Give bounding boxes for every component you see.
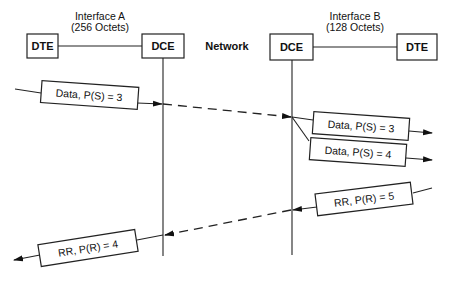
interface-a-size: (256 Octets) [71, 21, 129, 33]
dce-right-label: DCE [280, 41, 303, 53]
dce-left-label: DCE [151, 40, 174, 52]
network-label: Network [205, 40, 249, 52]
message-rr-pr4-interface-a: RR, P(R) = 4 [14, 229, 163, 266]
dte-right-node: DTE [397, 34, 437, 60]
dte-right-label: DTE [406, 41, 428, 53]
sequence-diagram: Interface A (256 Octets) Interface B (12… [0, 0, 449, 282]
message-data-ps3-interface-b: Data, P(S) = 3 [292, 112, 432, 141]
dte-left-node: DTE [27, 34, 58, 58]
dce-left-node: DCE [142, 34, 184, 58]
message-rr-pr5-interface-b: RR, P(R) = 5 [293, 182, 432, 216]
message-data-ps3-interface-a: Data, P(S) = 3 [15, 81, 162, 110]
dce-right-node: DCE [270, 34, 313, 60]
network-transfer-rr [165, 210, 291, 235]
interface-b-size: (128 Octets) [326, 21, 384, 33]
network-transfer-data [163, 104, 291, 117]
dte-left-label: DTE [32, 40, 54, 52]
